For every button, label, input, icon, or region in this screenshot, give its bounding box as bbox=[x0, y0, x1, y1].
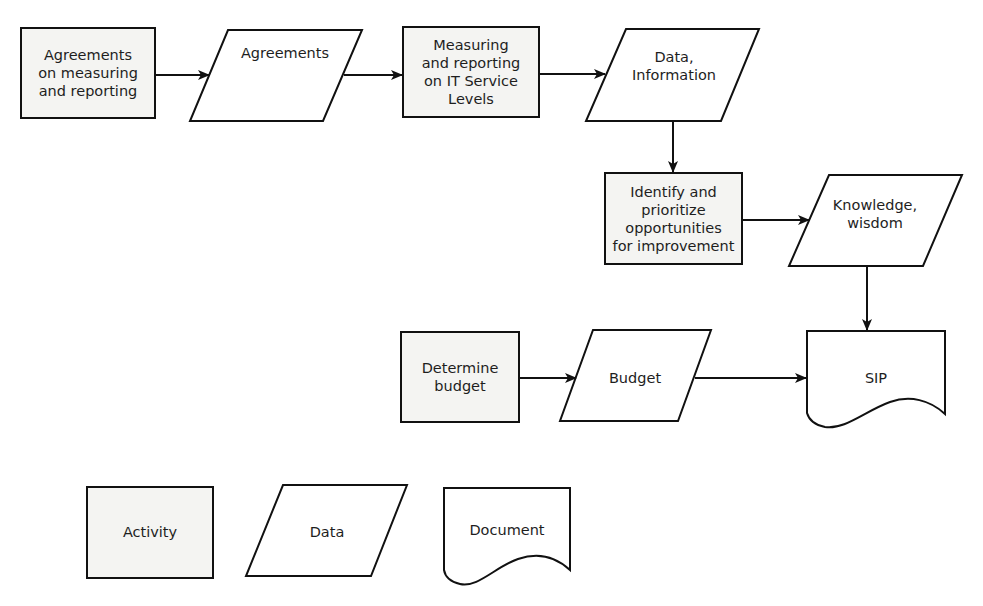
label-agreements-data: Agreements bbox=[230, 30, 340, 76]
legend-label-document: Document bbox=[444, 510, 570, 550]
label-measuring-activity: Measuring and reporting on IT Service Le… bbox=[403, 27, 539, 117]
legend-label-activity: Activity bbox=[87, 512, 213, 552]
label-identify-activity: Identify and prioritize opportunities fo… bbox=[605, 173, 742, 264]
label-data-information: Data, Information bbox=[614, 38, 734, 94]
legend-label-data: Data bbox=[272, 512, 382, 552]
label-sip-document: SIP bbox=[807, 358, 945, 398]
label-determine-budget: Determine budget bbox=[401, 342, 519, 412]
label-agreements-activity: Agreements on measuring and reporting bbox=[21, 28, 155, 118]
label-budget-data: Budget bbox=[585, 358, 685, 398]
label-knowledge-wisdom: Knowledge, wisdom bbox=[815, 186, 935, 242]
